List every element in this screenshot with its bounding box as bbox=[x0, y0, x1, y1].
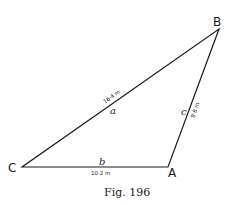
vertex-label-a: A bbox=[168, 166, 177, 180]
vertex-label-b: B bbox=[213, 15, 221, 29]
side-letter-c: c bbox=[181, 106, 187, 117]
side-length-b: 10·2 m bbox=[91, 170, 110, 176]
side-letter-b: b bbox=[99, 156, 105, 167]
side-length-a: 16·4 m bbox=[102, 89, 121, 105]
vertex-label-c: C bbox=[8, 161, 16, 175]
figure-caption: Fig. 196 bbox=[104, 186, 150, 199]
triangle-abc bbox=[22, 29, 219, 167]
triangle-diagram: C A B b 10·2 m 16·4 m a c 9·8 m Fig. 196 bbox=[0, 0, 239, 205]
side-letter-a: a bbox=[110, 105, 116, 116]
